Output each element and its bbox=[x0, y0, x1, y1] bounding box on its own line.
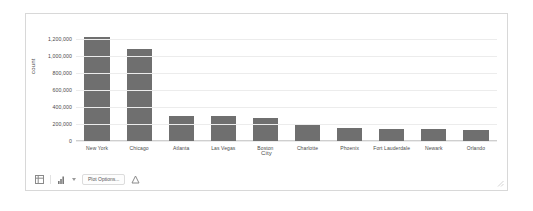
chart-toolbar: Plot Options... bbox=[26, 168, 507, 190]
y-axis-tick-label: 1,000,000 bbox=[48, 53, 72, 59]
bar[interactable] bbox=[169, 116, 194, 141]
bar[interactable] bbox=[337, 128, 362, 141]
y-axis-tick-label: 0 bbox=[69, 138, 72, 144]
y-axis-tick-label: 400,000 bbox=[53, 104, 72, 110]
y-axis-tick-label: 200,000 bbox=[53, 121, 72, 127]
plot-options-button[interactable]: Plot Options... bbox=[82, 174, 125, 185]
bar[interactable] bbox=[421, 129, 446, 141]
gridline bbox=[76, 39, 497, 40]
plot-area: count New YorkChicagoAtlantaLas VegasBos… bbox=[26, 14, 507, 162]
gridline bbox=[76, 124, 497, 125]
y-axis-title: count bbox=[30, 58, 36, 74]
export-icon[interactable] bbox=[131, 175, 140, 184]
bar-chart-icon[interactable] bbox=[57, 175, 66, 184]
x-axis-title: City bbox=[26, 150, 507, 156]
axis-area: New YorkChicagoAtlantaLas VegasBostonCha… bbox=[76, 31, 497, 141]
bar[interactable] bbox=[127, 49, 152, 141]
bar[interactable] bbox=[211, 116, 236, 141]
bar[interactable] bbox=[84, 37, 109, 141]
gridline bbox=[76, 56, 497, 57]
table-icon[interactable] bbox=[35, 175, 44, 184]
y-axis-tick-label: 800,000 bbox=[53, 70, 72, 76]
resize-handle-icon[interactable] bbox=[497, 180, 504, 187]
chart-panel: count New YorkChicagoAtlantaLas VegasBos… bbox=[25, 13, 508, 191]
bar[interactable] bbox=[379, 129, 404, 141]
bar[interactable] bbox=[253, 118, 278, 141]
bar[interactable] bbox=[463, 130, 488, 141]
chart-viewer-window: count New YorkChicagoAtlantaLas VegasBos… bbox=[0, 0, 533, 211]
bar[interactable] bbox=[295, 125, 320, 142]
gridline bbox=[76, 107, 497, 108]
gridline bbox=[76, 73, 497, 74]
toolbar-divider bbox=[50, 175, 51, 184]
gridline bbox=[76, 90, 497, 91]
y-axis-tick-label: 1,200,000 bbox=[48, 36, 72, 42]
y-axis-tick-label: 600,000 bbox=[53, 87, 72, 93]
chevron-down-icon[interactable] bbox=[72, 178, 76, 181]
gridline bbox=[76, 141, 497, 142]
